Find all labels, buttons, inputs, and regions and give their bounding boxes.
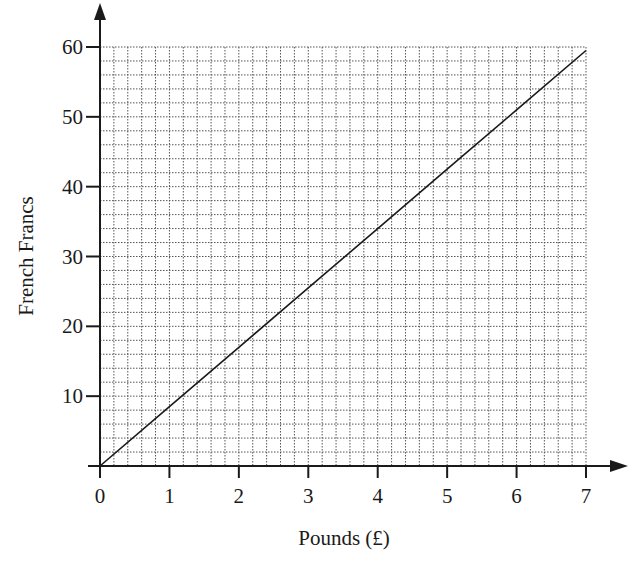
y-tick-label: 20	[62, 314, 83, 338]
x-tick-label: 4	[372, 484, 383, 508]
x-tick-label: 7	[581, 484, 592, 508]
x-tick-label: 0	[95, 484, 106, 508]
x-axis-arrow-icon	[610, 460, 628, 472]
series	[100, 50, 586, 466]
conversion-chart: 01234567102030405060 Pounds (£) French F…	[0, 0, 629, 562]
x-axis-title: Pounds (£)	[298, 526, 390, 550]
y-tick-label: 30	[62, 245, 83, 269]
y-axis-title: French Francs	[14, 196, 38, 316]
y-tick-label: 40	[62, 175, 83, 199]
x-tick-label: 1	[164, 484, 175, 508]
conversion-line	[100, 50, 586, 466]
x-tick-label: 5	[442, 484, 453, 508]
y-tick-label: 50	[62, 105, 83, 129]
y-tick-label: 60	[62, 35, 83, 59]
y-axis-arrow-icon	[94, 3, 106, 20]
x-tick-label: 2	[234, 484, 245, 508]
x-tick-label: 6	[511, 484, 522, 508]
x-tick-label: 3	[303, 484, 314, 508]
y-tick-label: 10	[62, 384, 83, 408]
